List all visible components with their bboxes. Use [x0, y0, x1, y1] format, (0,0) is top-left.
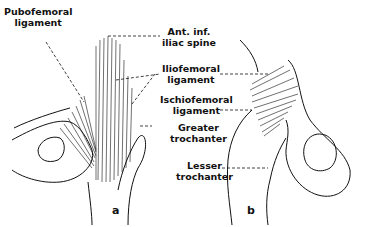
label-line: Greater [170, 122, 227, 133]
label-line: ligament [160, 105, 233, 116]
label-line: Lesser [176, 160, 233, 171]
label-line: ligament [4, 17, 72, 28]
label-lesser-trochanter: Lesser trochanter [176, 160, 233, 182]
label-line: Ischiofemoral [160, 94, 233, 105]
label-pubofemoral-ligament: Pubofemoral ligament [4, 6, 72, 28]
label-line: trochanter [176, 171, 233, 182]
pelvis-outline-b [286, 60, 350, 196]
leader-pubofemoral [46, 42, 84, 102]
pelvis-outline-a [12, 121, 93, 182]
label-ant-inf-iliac-spine: Ant. inf. iliac spine [162, 26, 216, 48]
label-iliofemoral-ligament: Iliofemoral ligament [162, 63, 220, 85]
panel-label-b: b [247, 204, 255, 217]
obturator-foramen-a [38, 137, 64, 161]
label-greater-trochanter: Greater trochanter [170, 122, 227, 144]
label-ischiofemoral-ligament: Ischiofemoral ligament [160, 94, 233, 116]
label-line: Iliofemoral [162, 63, 220, 74]
label-line: Pubofemoral [4, 6, 72, 17]
obturator-foramen-b [304, 134, 337, 171]
label-line: Ant. inf. [162, 26, 216, 37]
leader-iliofemoral-a [116, 74, 160, 80]
panel-label-a: a [112, 204, 119, 217]
label-line: ligament [162, 74, 220, 85]
label-line: iliac spine [162, 37, 216, 48]
label-line: trochanter [170, 133, 227, 144]
